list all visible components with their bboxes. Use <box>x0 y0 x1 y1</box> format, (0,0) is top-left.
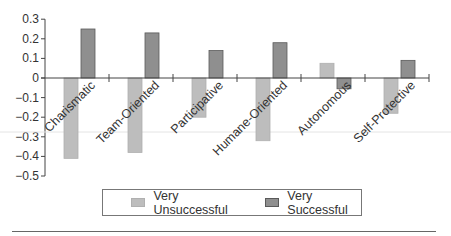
y-tick-label: −0.2 <box>15 110 39 124</box>
y-tick-label: 0.3 <box>22 12 39 26</box>
category-labels: CharismaticTeam-OrientedParticipativeHum… <box>42 78 419 158</box>
y-tick-label: −0.1 <box>15 91 39 105</box>
y-tick-label: 0.2 <box>22 32 39 46</box>
legend-label: Very Successful <box>287 189 361 217</box>
y-tick-label: −0.4 <box>15 149 39 163</box>
legend: Very Unsuccessful Very Successful <box>102 189 362 216</box>
bar-team-oriented-very-successful <box>145 33 159 78</box>
legend-label: Very Unsuccessful <box>153 189 238 217</box>
x-axis <box>41 74 429 82</box>
bar-autonomous-very-unsuccessful <box>320 63 334 78</box>
legend-item-very-successful: Very Successful <box>265 189 361 217</box>
y-tick-label: 0 <box>32 71 39 85</box>
bottom-rule <box>12 231 436 232</box>
legend-swatch-dark-icon <box>265 198 279 207</box>
legend-item-very-unsuccessful: Very Unsuccessful <box>131 189 239 217</box>
bar-participative-very-successful <box>209 51 223 78</box>
category-label: Autonomous <box>295 78 355 138</box>
y-tick-label: −0.5 <box>15 169 39 183</box>
bar-charismatic-very-successful <box>81 29 95 78</box>
bar-self-protective-very-successful <box>401 60 415 78</box>
legend-swatch-light-icon <box>131 198 145 207</box>
y-tick-label: 0.1 <box>22 51 39 65</box>
bar-humane-oriented-very-successful <box>273 43 287 78</box>
